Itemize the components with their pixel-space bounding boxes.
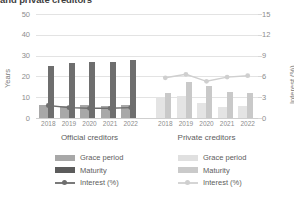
interest-marker-private-2020 <box>204 79 209 84</box>
legend-item-grace-official[interactable]: Grace period <box>55 152 123 163</box>
legend-label-maturity-official: Maturity <box>80 166 107 175</box>
x-axis-tick-private-2019: 2019 <box>175 120 197 128</box>
maturity-swatch-icon <box>178 167 198 173</box>
interest-line-layer <box>36 14 258 118</box>
y-axis-right-tick-dash <box>258 14 262 15</box>
grace-period-swatch-icon <box>55 155 75 161</box>
interest-marker-official-2020 <box>87 106 92 111</box>
y-axis-left-tick: 50 <box>4 11 30 18</box>
grace-period-swatch-icon <box>178 155 198 161</box>
y-axis-right-label: Interest (%) <box>288 65 294 104</box>
x-axis-tick-official-2021: 2021 <box>99 120 121 128</box>
interest-marker-official-2019 <box>67 105 72 110</box>
y-axis-right-tick: 9 <box>262 52 278 59</box>
maturity-swatch-icon <box>55 167 75 173</box>
legend-item-interest-private[interactable]: Interest (%) <box>178 177 246 188</box>
y-axis-right-tick-dash <box>258 76 262 77</box>
y-axis-left-tick: 40 <box>4 31 30 38</box>
x-axis-tick-private-2021: 2021 <box>216 120 238 128</box>
group-label-official: Official creditors <box>28 133 151 143</box>
group-label-private: Private creditors <box>145 133 268 143</box>
legend-item-maturity-private[interactable]: Maturity <box>178 165 246 176</box>
x-axis-tick-official-2020: 2020 <box>79 120 101 128</box>
interest-marker-official-2022 <box>128 105 133 110</box>
y-axis-right-tick: 15 <box>262 11 278 18</box>
chart-title: and private creditors <box>0 0 200 5</box>
y-axis-right-tick-dash <box>258 118 262 119</box>
y-axis-left-tick: 10 <box>4 94 30 101</box>
y-axis-right-tick: 6 <box>262 73 278 80</box>
interest-marker-official-2021 <box>108 106 113 111</box>
legend-item-maturity-official[interactable]: Maturity <box>55 165 123 176</box>
y-axis-right-tick-dash <box>258 56 262 57</box>
legend-official: Grace period Maturity Interest (%) <box>55 152 123 190</box>
legend-item-grace-private[interactable]: Grace period <box>178 152 246 163</box>
y-axis-right-tick: 3 <box>262 94 278 101</box>
x-axis-tick-official-2022: 2022 <box>120 120 142 128</box>
legend-label-grace-official: Grace period <box>80 153 123 162</box>
x-axis-tick-private-2020: 2020 <box>196 120 218 128</box>
y-axis-left-tick: 0 <box>4 115 30 122</box>
interest-marker-private-2022 <box>245 73 250 78</box>
interest-marker-private-2018 <box>163 75 168 80</box>
y-axis-left-tick: 30 <box>4 52 30 59</box>
interest-line-swatch-icon <box>178 180 198 186</box>
interest-line-swatch-icon <box>55 180 75 186</box>
y-axis-left-tick: 20 <box>4 73 30 80</box>
legend-label-grace-private: Grace period <box>203 153 246 162</box>
x-axis-tick-private-2018: 2018 <box>154 120 176 128</box>
legend-label-interest-private: Interest (%) <box>203 178 242 187</box>
legend-label-interest-official: Interest (%) <box>80 178 119 187</box>
chart-container: and private creditors Years Interest (%)… <box>0 0 294 201</box>
gridline <box>36 118 258 119</box>
interest-marker-private-2021 <box>225 75 230 80</box>
legend-private: Grace period Maturity Interest (%) <box>178 152 246 190</box>
legend-label-maturity-private: Maturity <box>203 166 230 175</box>
y-axis-right-tick: 0 <box>262 115 278 122</box>
legend-item-interest-official[interactable]: Interest (%) <box>55 177 123 188</box>
y-axis-right-tick-dash <box>258 97 262 98</box>
plot-area <box>36 14 258 118</box>
y-axis-right-tick: 12 <box>262 31 278 38</box>
interest-marker-private-2019 <box>184 72 189 77</box>
y-axis-right-tick-dash <box>258 35 262 36</box>
x-axis-tick-official-2019: 2019 <box>58 120 80 128</box>
interest-marker-official-2018 <box>46 103 51 108</box>
x-axis-tick-private-2022: 2022 <box>237 120 259 128</box>
x-axis-tick-official-2018: 2018 <box>37 120 59 128</box>
